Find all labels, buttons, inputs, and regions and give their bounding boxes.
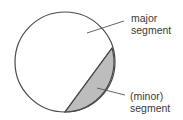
minor-label-line1: (minor) <box>130 90 163 102</box>
major-label-line1: major <box>131 12 158 24</box>
minor-label-line2: segment <box>130 102 170 114</box>
circle-segment-diagram: major segment (minor) segment <box>0 0 183 120</box>
major-label-line2: segment <box>131 24 171 36</box>
